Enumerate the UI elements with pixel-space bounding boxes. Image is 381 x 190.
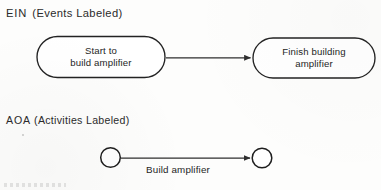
network-diagram: Start to build amplifier Finish building…: [0, 0, 381, 190]
build-amplifier-label: Build amplifier: [146, 164, 210, 175]
right-event-circle: [252, 148, 272, 168]
start-node-line2: build amplifier: [70, 57, 132, 68]
finish-node-line2: amplifier: [295, 58, 333, 69]
start-node-line1: Start to: [85, 45, 117, 56]
aoa-right-event-node[interactable]: [252, 148, 272, 168]
finish-node-line1: Finish building: [282, 46, 346, 57]
figure-canvas: EIN(Events Labeled) AOA(Activities Label…: [0, 0, 381, 190]
left-event-circle: [101, 148, 121, 168]
aoa-activity-arrow[interactable]: Build amplifier: [121, 158, 251, 175]
ein-start-node[interactable]: Start to build amplifier: [37, 37, 165, 78]
ein-finish-node[interactable]: Finish building amplifier: [253, 38, 375, 78]
aoa-left-event-node[interactable]: [101, 148, 121, 168]
